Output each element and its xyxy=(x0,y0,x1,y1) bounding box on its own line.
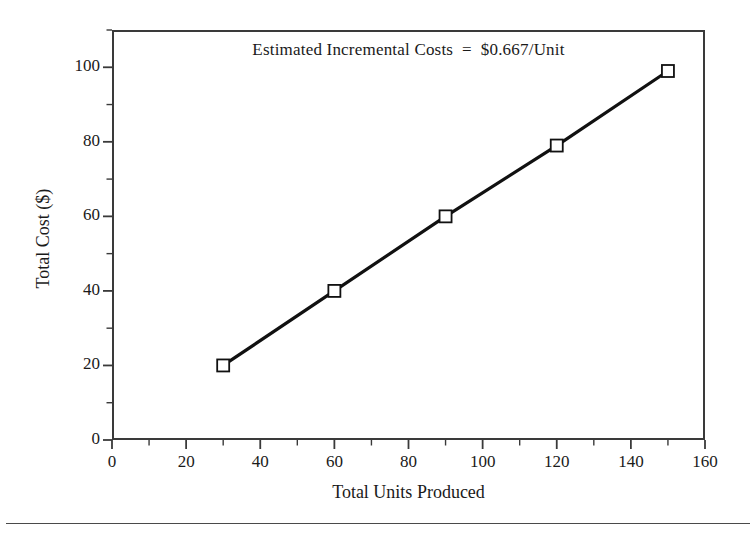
x-tick-label: 0 xyxy=(82,452,142,472)
plot-frame xyxy=(112,30,705,440)
figure-separator-rule xyxy=(6,523,750,524)
y-axis-ticks xyxy=(103,30,112,440)
x-tick-label: 120 xyxy=(527,452,587,472)
y-tick-label: 20 xyxy=(40,354,100,374)
y-axis-title: Total Cost ($) xyxy=(33,149,54,329)
x-tick-label: 80 xyxy=(379,452,439,472)
y-tick-label: 100 xyxy=(40,56,100,76)
figure-container: Estimated Incremental Costs = $0.667/Uni… xyxy=(0,0,756,534)
x-tick-label: 140 xyxy=(601,452,661,472)
x-tick-label: 100 xyxy=(453,452,513,472)
x-axis-title: Total Units Produced xyxy=(112,482,705,503)
chart-annotation: Estimated Incremental Costs = $0.667/Uni… xyxy=(112,40,705,60)
x-tick-label: 40 xyxy=(230,452,290,472)
x-tick-label: 160 xyxy=(675,452,735,472)
y-tick-label: 0 xyxy=(40,429,100,449)
x-axis-ticks xyxy=(112,440,705,449)
x-tick-label: 20 xyxy=(156,452,216,472)
x-tick-label: 60 xyxy=(304,452,364,472)
